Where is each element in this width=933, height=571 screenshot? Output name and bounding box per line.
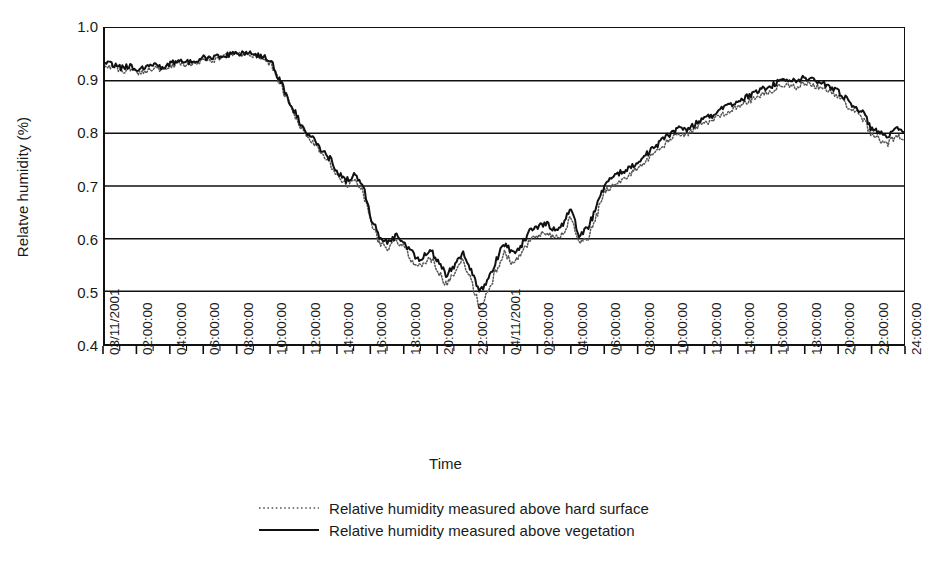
legend-label-vegetation: Relative humidity measured above vegetat…: [329, 522, 635, 539]
legend-swatch-dotted: [258, 503, 320, 513]
x-axis-title: Time: [0, 455, 933, 472]
x-tick-marks-svg: [0, 0, 933, 571]
humidity-time-series-chart: Relatve humidity (%) 1.00.90.80.70.60.50…: [0, 0, 933, 571]
legend-item-hard-surface: Relative humidity measured above hard su…: [258, 497, 778, 519]
legend-item-vegetation: Relative humidity measured above vegetat…: [258, 519, 778, 541]
legend-swatch-solid: [258, 525, 320, 535]
legend-label-hard-surface: Relative humidity measured above hard su…: [329, 500, 649, 517]
chart-legend: Relative humidity measured above hard su…: [258, 497, 778, 541]
